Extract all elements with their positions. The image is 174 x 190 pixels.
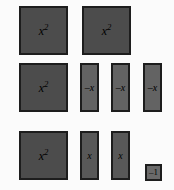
negative-x-tile[interactable]: –x xyxy=(143,63,162,112)
x-squared-tile-label: x2 xyxy=(39,24,49,36)
negative-x-tile[interactable]: –x xyxy=(80,63,99,112)
negative-one-tile-label: –1 xyxy=(149,168,158,177)
x-squared-tile[interactable]: x2 xyxy=(19,131,68,180)
algebra-tiles-board: x2x2x2–x–x–xx2xx–1 xyxy=(0,0,174,190)
x-tile-label: x xyxy=(118,150,122,160)
x-squared-tile-label: x2 xyxy=(39,149,49,161)
x-tile[interactable]: x xyxy=(111,131,130,180)
x-squared-tile-exponent: 2 xyxy=(44,21,48,31)
negative-x-tile-label: –x xyxy=(116,82,125,92)
x-squared-tile[interactable]: x2 xyxy=(82,6,131,55)
negative-one-tile[interactable]: –1 xyxy=(145,164,162,181)
x-squared-tile-exponent: 2 xyxy=(44,78,48,88)
x-squared-tile-label: x2 xyxy=(39,81,49,93)
x-squared-tile-label: x2 xyxy=(102,24,112,36)
x-squared-tile-exponent: 2 xyxy=(107,21,111,31)
negative-x-tile-label: –x xyxy=(85,82,94,92)
negative-x-tile[interactable]: –x xyxy=(111,63,130,112)
x-squared-tile[interactable]: x2 xyxy=(19,63,68,112)
negative-x-tile-label: –x xyxy=(148,82,157,92)
x-squared-tile-exponent: 2 xyxy=(44,146,48,156)
x-tile-label: x xyxy=(87,150,91,160)
x-tile[interactable]: x xyxy=(80,131,99,180)
x-squared-tile[interactable]: x2 xyxy=(19,6,68,55)
